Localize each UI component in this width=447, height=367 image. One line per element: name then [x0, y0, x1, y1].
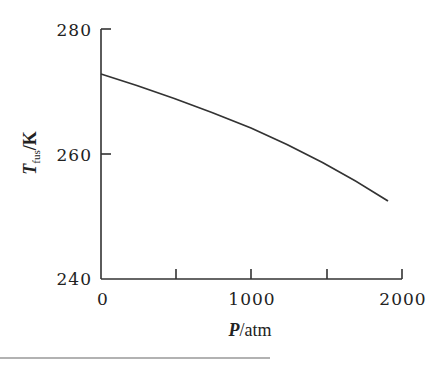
x-tick-label-1000: 1000 [228, 289, 275, 309]
y-tick-label-260: 260 [57, 145, 92, 165]
x-axis-unit: /atm [240, 320, 272, 340]
melting-curve [101, 74, 388, 201]
y-tick-label-240: 240 [57, 269, 92, 289]
chart: 280 260 240 0 1000 2000 P/atm Tfus/K [0, 0, 447, 367]
y-axis-label: Tfus/K [20, 131, 42, 174]
x-tick-label-2000: 2000 [379, 289, 426, 309]
y-axis-sub: fus [30, 150, 42, 163]
x-tick-label-0: 0 [97, 289, 109, 309]
y-tick-label-280: 280 [57, 20, 92, 40]
y-axis-unit: /K [20, 131, 40, 151]
axes [101, 29, 402, 279]
x-axis-label: P/atm [228, 320, 272, 340]
